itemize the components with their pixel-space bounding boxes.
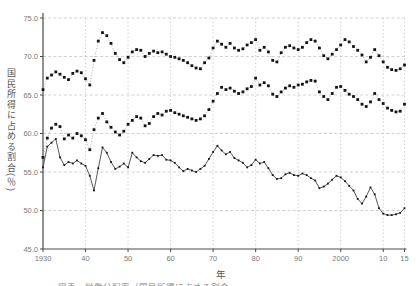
series-bottom-marker (404, 207, 406, 209)
series-bottom-marker (131, 152, 133, 154)
series-top-marker (199, 67, 202, 70)
series-middle-marker (365, 105, 368, 108)
series-bottom-marker (127, 167, 129, 169)
series-bottom-marker (110, 161, 112, 163)
series-middle-marker (344, 89, 347, 92)
series-middle-marker (242, 91, 245, 94)
series-middle-marker (93, 128, 96, 131)
series-middle-marker (67, 134, 70, 137)
series-middle-marker (369, 101, 372, 104)
series-top-marker (403, 64, 406, 67)
series-middle-marker (80, 134, 83, 137)
y-tick-label: 45.0 (23, 245, 38, 254)
series-middle-marker (114, 131, 117, 134)
series-middle-marker (390, 109, 393, 112)
series-middle-marker (135, 115, 138, 118)
series-bottom-marker (204, 165, 206, 167)
series-top-marker (339, 44, 342, 47)
series-bottom-marker (353, 190, 355, 192)
series-bottom-marker (182, 170, 184, 172)
series-middle-marker (382, 102, 385, 105)
series-top-marker (42, 88, 45, 91)
series-top-marker (182, 59, 185, 62)
series-top-marker (135, 48, 138, 51)
y-tick-label: 65.0 (23, 91, 38, 100)
series-top-marker (105, 34, 108, 37)
y-tick-label: 55.0 (23, 168, 38, 177)
series-middle-marker (305, 81, 308, 84)
series-middle-marker (54, 123, 57, 126)
series-bottom-marker (144, 162, 146, 164)
series-bottom-marker (268, 167, 270, 169)
series-bottom-marker (174, 162, 176, 164)
series-bottom-marker (153, 154, 155, 156)
series-middle-marker (71, 137, 74, 140)
series-top-marker (71, 72, 74, 75)
series-middle-marker (220, 86, 223, 89)
series-middle-marker (403, 103, 406, 106)
series-top-marker (390, 68, 393, 71)
series-bottom-marker (97, 167, 99, 169)
series-bottom-marker (391, 214, 393, 216)
series-middle-marker (216, 92, 219, 95)
series-middle-marker (361, 103, 364, 106)
series-top-marker (144, 55, 147, 58)
series-bottom-marker (80, 163, 82, 165)
x-tick-label: 15 (400, 254, 408, 263)
series-middle-marker (237, 92, 240, 95)
series-bottom-marker (357, 198, 359, 200)
x-tick-label: 1930 (35, 254, 52, 263)
series-middle-marker (322, 95, 325, 98)
series-top-marker (233, 47, 236, 50)
x-tick-label: 40 (81, 254, 89, 263)
series-bottom-marker (361, 203, 363, 205)
series-middle-marker (59, 125, 62, 128)
series-middle-marker (88, 148, 91, 151)
series-bottom-marker (165, 159, 167, 161)
series-bottom-marker (306, 174, 308, 176)
series-top-marker (59, 73, 62, 76)
series-bottom-marker (200, 168, 202, 170)
series-top-marker (118, 58, 121, 61)
series-top-marker (139, 49, 142, 52)
series-top-marker (186, 61, 189, 64)
series-middle-marker (356, 98, 359, 101)
series-bottom-marker (89, 175, 91, 177)
x-tick-label: 60 (166, 254, 174, 263)
series-middle-marker (152, 115, 155, 118)
series-bottom-marker (170, 160, 172, 162)
series-top-marker (263, 46, 266, 49)
series-bottom-marker (42, 167, 44, 169)
series-top-marker (122, 61, 125, 64)
series-top-marker (276, 61, 279, 64)
series-top-marker (373, 48, 376, 51)
series-bottom-marker (102, 147, 104, 149)
series-bottom-marker (161, 154, 163, 156)
series-middle-marker (63, 138, 66, 141)
series-middle-marker (284, 87, 287, 90)
series-bottom-marker (336, 175, 338, 177)
series-top-marker (114, 52, 117, 55)
y-tick-label: 75.0 (23, 14, 38, 23)
series-top-marker (322, 54, 325, 57)
series-top-marker (378, 54, 381, 57)
series-middle-marker (156, 112, 159, 115)
series-top-marker (54, 71, 57, 74)
series-bottom-marker (340, 177, 342, 179)
series-bottom-marker (365, 196, 367, 198)
series-top-marker (284, 46, 287, 49)
series-middle-marker (327, 98, 330, 101)
series-middle-marker (339, 85, 342, 88)
series-middle-marker (212, 100, 215, 103)
series-top-marker (348, 41, 351, 44)
series-middle-marker (50, 127, 53, 130)
series-top-marker (361, 54, 364, 57)
series-middle-marker (195, 119, 198, 122)
x-tick-label: 80 (251, 254, 259, 263)
series-middle-marker (42, 156, 45, 159)
series-middle-marker (110, 126, 113, 129)
series-middle-marker (293, 86, 296, 89)
series-middle-marker (314, 80, 317, 83)
series-bottom-marker (348, 185, 350, 187)
series-top-marker (327, 57, 330, 60)
